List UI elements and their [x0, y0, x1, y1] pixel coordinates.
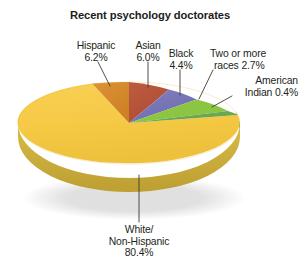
slice-label-black-name: Black	[158, 48, 204, 60]
slice-label-black: Black 4.4%	[158, 48, 204, 71]
slice-label-black-value: 4.4%	[158, 60, 204, 72]
slice-label-hispanic-value: 6.2%	[64, 52, 128, 64]
slice-label-white-nonhispanic-line2: Non-Hispanic	[84, 236, 194, 248]
chart-canvas: Recent psychology doctorates	[0, 0, 300, 271]
slice-label-white-nonhispanic: White/ Non-Hispanic 80.4%	[84, 224, 194, 259]
leader-line-hispanic	[98, 62, 110, 86]
slice-label-american-indian-line1: American	[200, 75, 298, 87]
slice-label-american-indian: American Indian 0.4%	[200, 75, 298, 98]
slice-label-american-indian-line2: Indian 0.4%	[200, 87, 298, 99]
slice-label-two-or-more-races-line2: races 2.7%	[210, 60, 266, 72]
slice-label-hispanic: Hispanic 6.2%	[64, 40, 128, 63]
slice-label-two-or-more-races-line1: Two or more	[210, 48, 266, 60]
slice-label-hispanic-name: Hispanic	[64, 40, 128, 52]
slice-label-white-nonhispanic-line1: White/	[84, 224, 194, 236]
slice-label-white-nonhispanic-line3: 80.4%	[84, 247, 194, 259]
slice-label-two-or-more-races: Two or more races 2.7%	[210, 48, 266, 71]
